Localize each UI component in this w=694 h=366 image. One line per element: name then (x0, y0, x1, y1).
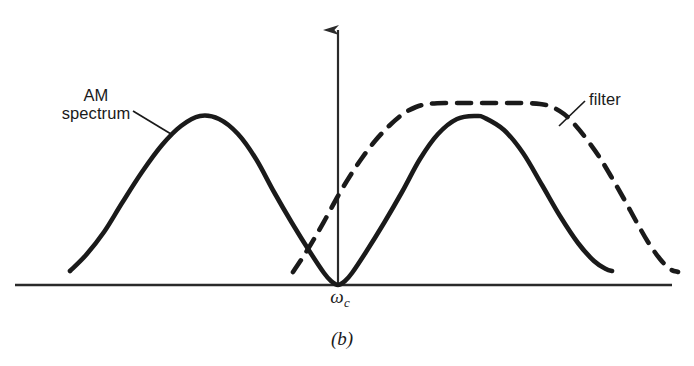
filter-response-curve (293, 103, 678, 272)
am-spectrum-label: AM spectrum (48, 86, 144, 123)
figure-panel-b: AM spectrum filter ωc (b) (0, 0, 694, 366)
omega-subscript: c (344, 295, 350, 310)
spectrum-plot-canvas (0, 0, 694, 366)
filter-label: filter (589, 90, 621, 108)
am-spectrum-curve (70, 116, 612, 285)
carrier-frequency-axis-label: ωc (308, 286, 372, 310)
omega-symbol: ω (330, 286, 343, 307)
am-spectrum-label-line1: AM (48, 86, 144, 104)
am-spectrum-label-line2: spectrum (48, 104, 144, 122)
figure-caption: (b) (310, 328, 374, 349)
